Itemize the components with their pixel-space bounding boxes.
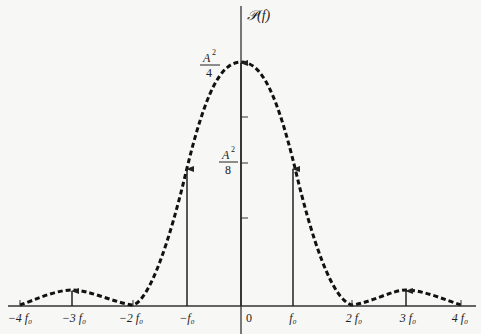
svg-text:4: 4 bbox=[206, 66, 212, 80]
x-label-zero: 0 bbox=[246, 311, 252, 325]
svg-text:A: A bbox=[221, 148, 230, 162]
y-axis-label: 𝒫(f) bbox=[247, 8, 271, 24]
x-label-minus-4f0: −4 f₀ bbox=[8, 311, 33, 325]
label-a2-over-8: A 2 8 bbox=[219, 145, 238, 177]
svg-text:2: 2 bbox=[212, 48, 216, 57]
x-label-3f0: 3 f₀ bbox=[399, 311, 417, 325]
svg-text:A: A bbox=[202, 51, 211, 65]
x-label-4f0: 4 f₀ bbox=[452, 311, 469, 325]
x-label-minus-2f0: −2 f₀ bbox=[119, 311, 144, 325]
svg-text:8: 8 bbox=[225, 163, 231, 177]
psd-diagram: 𝒫(f) A 2 4 A 2 8 −4 f₀ −3 f₀ −2 f₀ −f₀ 0… bbox=[0, 0, 481, 334]
x-label-minus-3f0: −3 f₀ bbox=[62, 311, 87, 325]
label-a2-over-4: A 2 4 bbox=[200, 48, 220, 80]
x-label-minus-f0: −f₀ bbox=[179, 311, 195, 325]
x-label-f0: f₀ bbox=[289, 311, 297, 325]
svg-text:2: 2 bbox=[231, 145, 235, 154]
x-label-2f0: 2 f₀ bbox=[346, 311, 363, 325]
